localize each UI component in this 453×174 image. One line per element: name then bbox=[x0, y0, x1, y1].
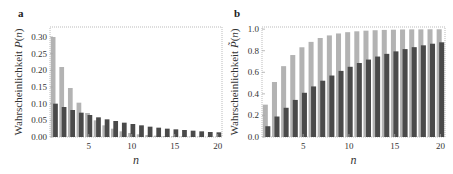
x-tick-label: 15 bbox=[170, 141, 180, 151]
y-tick-label: 0.10 bbox=[31, 99, 47, 109]
bar-dark bbox=[113, 121, 118, 137]
bar-dark bbox=[357, 63, 362, 137]
bar-dark bbox=[62, 107, 67, 137]
x-tick-label: 5 bbox=[301, 141, 306, 151]
bar-dark bbox=[139, 125, 144, 137]
y-tick-label: 0.30 bbox=[31, 32, 47, 42]
bar-dark bbox=[165, 129, 170, 137]
y-tick-label: 0.4 bbox=[248, 89, 260, 99]
x-tick-label: 10 bbox=[127, 141, 137, 151]
x-tick-label: 10 bbox=[344, 141, 354, 151]
bar-dark bbox=[70, 110, 75, 137]
bar-dark bbox=[339, 71, 344, 137]
y-tick-label: 0.25 bbox=[31, 49, 47, 59]
bar-dark bbox=[375, 57, 380, 137]
bar-dark bbox=[96, 117, 101, 137]
y-tick-label: 0.6 bbox=[248, 67, 260, 77]
bar-dark bbox=[131, 124, 136, 137]
bar-dark bbox=[265, 126, 270, 137]
bar-dark bbox=[412, 47, 417, 137]
bar-dark bbox=[430, 44, 435, 137]
x-axis-label: n bbox=[351, 153, 357, 167]
bar-dark bbox=[182, 130, 187, 137]
y-tick-label: 0.0 bbox=[248, 132, 260, 142]
bar-dark bbox=[191, 131, 196, 137]
bar-dark bbox=[79, 113, 84, 137]
x-tick-label: 20 bbox=[213, 141, 223, 151]
bar-dark bbox=[366, 60, 371, 137]
bar-dark bbox=[393, 51, 398, 137]
panel-label: a bbox=[18, 7, 24, 19]
bar-dark bbox=[208, 132, 213, 137]
bar-dark bbox=[348, 67, 353, 137]
bar-dark bbox=[88, 115, 93, 137]
bar-dark bbox=[302, 93, 307, 137]
bar-dark bbox=[329, 76, 334, 137]
x-tick-label: 20 bbox=[436, 141, 446, 151]
bar-dark bbox=[311, 86, 316, 137]
y-tick-label: 1.0 bbox=[248, 24, 260, 34]
bar-dark bbox=[199, 131, 204, 137]
bar-dark bbox=[156, 128, 161, 137]
y-tick-label: 0.00 bbox=[31, 132, 47, 142]
plot-frame bbox=[262, 27, 445, 137]
plot-frame bbox=[50, 27, 222, 137]
bar-dark bbox=[439, 42, 444, 137]
panel-label: b bbox=[234, 7, 240, 19]
y-tick-label: 0.2 bbox=[248, 110, 259, 120]
bar-dark bbox=[53, 104, 58, 137]
bar-dark bbox=[217, 132, 222, 137]
chart-panel-b: 0.00.20.40.60.81.05101520nWahrscheinlich… bbox=[228, 7, 445, 167]
bar-dark bbox=[274, 117, 279, 137]
bar-dark bbox=[320, 81, 325, 137]
x-tick-label: 15 bbox=[390, 141, 400, 151]
bar-dark bbox=[122, 123, 127, 137]
bar-dark bbox=[293, 100, 298, 137]
y-tick-label: 0.15 bbox=[31, 82, 47, 92]
bar-dark bbox=[384, 54, 389, 137]
bar-dark bbox=[421, 45, 426, 137]
bar-dark bbox=[105, 119, 110, 137]
bar-dark bbox=[148, 127, 153, 137]
y-axis-label: Wahrscheinlichkeit P(n) bbox=[12, 28, 25, 135]
y-axis-label: Wahrscheinlichkeit P̃(n) bbox=[228, 28, 241, 135]
y-tick-label: 0.05 bbox=[31, 115, 47, 125]
x-tick-label: 5 bbox=[86, 141, 91, 151]
bar-dark bbox=[174, 129, 179, 137]
bar-dark bbox=[284, 108, 289, 137]
y-tick-label: 0.8 bbox=[248, 46, 260, 56]
x-axis-label: n bbox=[133, 153, 139, 167]
figure: 0.000.050.100.150.200.250.305101520nWahr… bbox=[0, 0, 453, 174]
bar-dark bbox=[403, 49, 408, 137]
y-tick-label: 0.20 bbox=[31, 65, 47, 75]
chart-panel-a: 0.000.050.100.150.200.250.305101520nWahr… bbox=[12, 7, 223, 167]
